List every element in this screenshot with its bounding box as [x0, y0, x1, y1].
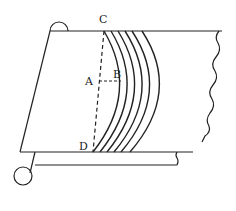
label-C: C [99, 13, 107, 26]
bottom-roller-icon [14, 167, 32, 185]
wavefront-arcs [93, 31, 159, 152]
label-D: D [79, 140, 88, 153]
diagram-canvas: C A B D [0, 0, 236, 211]
top-roller-icon [50, 22, 68, 31]
right-torn-edge [202, 31, 220, 142]
label-A: A [84, 75, 94, 88]
chord-CD [93, 31, 104, 152]
arc-1 [93, 31, 120, 152]
bottom-roller-side [30, 152, 35, 173]
strip-torn-edge [176, 152, 178, 165]
label-B: B [113, 68, 121, 81]
left-edge [20, 31, 50, 152]
